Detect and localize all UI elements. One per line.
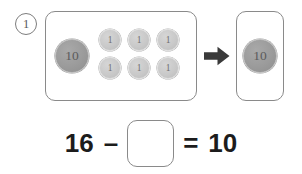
one-coin[interactable]: 1 xyxy=(99,29,121,51)
ten-coin[interactable]: 10 xyxy=(243,39,277,73)
result-value: 10 xyxy=(208,130,237,156)
one-coin[interactable]: 1 xyxy=(157,57,179,79)
equation-row: 16 – = 10 xyxy=(0,112,302,174)
minus-operator: – xyxy=(104,130,118,156)
one-coin[interactable]: 1 xyxy=(157,29,179,51)
one-coin[interactable]: 1 xyxy=(128,29,150,51)
worksheet-problem: 1 10 1 1 1 1 1 1 10 16 – = 10 xyxy=(0,0,302,174)
one-coin[interactable]: 1 xyxy=(99,57,121,79)
problem-number-badge: 1 xyxy=(15,13,37,35)
arrow-right-icon xyxy=(204,46,230,66)
answer-input-box[interactable] xyxy=(127,120,174,167)
one-coin[interactable]: 1 xyxy=(128,57,150,79)
minuend-value: 16 xyxy=(65,130,94,156)
equals-operator: = xyxy=(183,130,198,156)
ten-coin[interactable]: 10 xyxy=(55,39,89,73)
